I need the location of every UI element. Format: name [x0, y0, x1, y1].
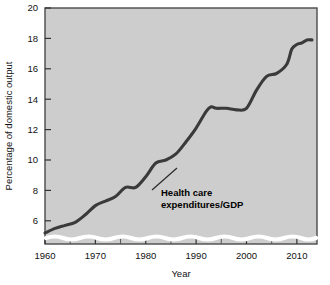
- annotation-label-line2: expenditures/GDP: [161, 199, 244, 210]
- x-axis-title: Year: [171, 268, 190, 279]
- x-tick-label: 1960: [34, 250, 55, 261]
- y-axis-title: Percentage of domestic output: [3, 61, 14, 190]
- y-tick-label: 10: [27, 154, 38, 165]
- y-tick-label: 8: [33, 185, 38, 196]
- x-tick-label: 1970: [85, 250, 106, 261]
- chart-canvas: 68101214161820 196019701980199020002010 …: [0, 0, 330, 285]
- x-tick-label: 2010: [286, 250, 307, 261]
- y-tick-label: 6: [33, 215, 38, 226]
- y-tick-label: 20: [27, 2, 38, 13]
- x-tick-label: 1990: [186, 250, 207, 261]
- y-tick-label: 12: [27, 124, 38, 135]
- x-axis-tick-labels: 196019701980199020002010: [34, 250, 307, 261]
- x-tick-label: 1980: [135, 250, 156, 261]
- y-axis-tick-labels: 68101214161820: [27, 2, 38, 226]
- y-tick-label: 14: [27, 94, 38, 105]
- x-tick-label: 2000: [236, 250, 257, 261]
- health-care-gdp-chart: 68101214161820 196019701980199020002010 …: [0, 0, 330, 285]
- y-tick-label: 16: [27, 63, 38, 74]
- y-tick-label: 18: [27, 33, 38, 44]
- annotation-label-line1: Health care: [161, 187, 212, 198]
